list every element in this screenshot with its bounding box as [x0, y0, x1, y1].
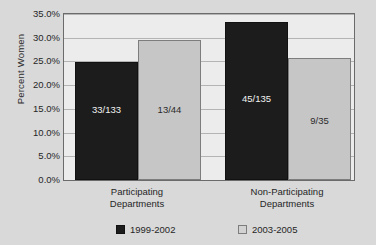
x-axis-category-line: Participating: [60, 186, 214, 198]
bar-value-label: 13/44: [139, 104, 200, 115]
legend-item-1[interactable]: 1999-2002: [116, 222, 175, 236]
x-axis-category-line: Departments: [210, 198, 364, 210]
x-axis-category-label: ParticipatingDepartments: [60, 186, 214, 209]
bar-series2-group1: 13/44: [138, 40, 201, 180]
legend-swatch-icon: [116, 225, 125, 234]
legend-swatch-icon: [238, 225, 247, 234]
bar-value-label: 45/135: [226, 93, 287, 104]
chart-legend: 1999-20022003-2005: [63, 222, 355, 238]
y-axis-tick-label: 0.0%: [8, 175, 60, 185]
x-axis-category-line: Departments: [60, 198, 214, 210]
legend-label: 2003-2005: [252, 224, 297, 235]
bar-series2-group2: 9/35: [288, 58, 351, 180]
y-axis-tick-label: 35.0%: [8, 9, 60, 19]
y-axis-tick-label: 20.0%: [8, 80, 60, 90]
y-axis-tick-label: 30.0%: [8, 33, 60, 43]
bar-value-label: 33/133: [76, 104, 137, 115]
y-axis-tick-labels: 35.0%30.0%25.0%20.0%15.0%10.0%5.0%0.0%: [8, 9, 60, 185]
x-axis-category-line: Non-Participating: [210, 186, 364, 198]
y-axis-tick-label: 10.0%: [8, 128, 60, 138]
bar-value-label: 9/35: [289, 115, 350, 126]
x-axis-category-label: Non-ParticipatingDepartments: [210, 186, 364, 209]
bars-layer: 33/13313/4445/1359/35: [64, 14, 354, 180]
bar-series1-group2: 45/135: [225, 22, 288, 180]
legend-label: 1999-2002: [130, 224, 175, 235]
y-axis-tick-label: 15.0%: [8, 104, 60, 114]
y-axis-tick-label: 25.0%: [8, 56, 60, 66]
y-axis-tick-label: 5.0%: [8, 151, 60, 161]
bar-chart: Percent Women 35.0%30.0%25.0%20.0%15.0%1…: [0, 0, 376, 245]
plot-area: 33/13313/4445/1359/35: [63, 13, 355, 181]
legend-item-2[interactable]: 2003-2005: [238, 222, 297, 236]
bar-series1-group1: 33/133: [75, 62, 138, 180]
x-axis-category-labels: ParticipatingDepartmentsNon-Participatin…: [63, 186, 355, 216]
